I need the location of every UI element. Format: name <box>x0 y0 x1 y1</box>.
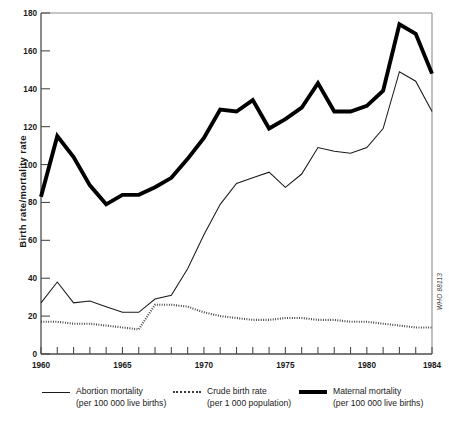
legend-label-line2: (per 1 000 population) <box>207 398 291 410</box>
y-tick-label: 140 <box>23 85 37 94</box>
y-tick-label: 100 <box>23 161 37 170</box>
x-tick-label: 1960 <box>32 361 51 370</box>
series-line-crude-birth-rate <box>41 305 432 330</box>
y-tick-label: 180 <box>23 9 37 18</box>
legend-label-line1: Abortion mortality <box>76 386 166 398</box>
legend-label-line1: Crude birth rate <box>207 386 291 398</box>
series-line-maternal-mortality <box>41 24 432 204</box>
x-tick-label: 1975 <box>276 361 295 370</box>
y-tick-label: 80 <box>28 198 38 207</box>
legend-label-line2: (per 100 000 live births) <box>333 398 423 410</box>
legend-item-crude-birth-rate: Crude birth rate (per 1 000 population) <box>173 386 291 409</box>
y-tick-label: 120 <box>23 123 37 132</box>
legend-swatch-solid-thin-icon <box>42 386 70 400</box>
y-tick-label: 20 <box>28 312 38 321</box>
plot-area: 020406080100120140160180 196019651970197… <box>0 0 449 386</box>
x-axis-ticks: 196019651970197519801984 <box>32 347 442 370</box>
legend-label-crude-birth-rate: Crude birth rate (per 1 000 population) <box>207 386 291 409</box>
legend-swatch-solid-thick-icon <box>299 386 327 400</box>
legend-label-maternal-mortality: Maternal mortality (per 100 000 live bir… <box>333 386 423 409</box>
legend-label-line1: Maternal mortality <box>333 386 423 398</box>
legend-item-maternal-mortality: Maternal mortality (per 100 000 live bir… <box>299 386 423 409</box>
chart-figure: Birth rate/mortality rate WHO 88113 0204… <box>0 0 449 422</box>
y-tick-label: 60 <box>28 236 38 245</box>
y-tick-label: 160 <box>23 47 37 56</box>
x-tick-label: 1980 <box>358 361 377 370</box>
legend-item-abortion-mortality: Abortion mortality (per 100 000 live bir… <box>42 386 166 409</box>
x-tick-label: 1970 <box>195 361 214 370</box>
legend-label-line2: (per 100 000 live births) <box>76 398 166 410</box>
x-tick-label: 1965 <box>113 361 132 370</box>
y-tick-label: 0 <box>32 350 37 359</box>
legend-swatch-dotted-icon <box>173 386 201 400</box>
chart-legend: Abortion mortality (per 100 000 live bir… <box>0 386 449 422</box>
legend-label-abortion-mortality: Abortion mortality (per 100 000 live bir… <box>76 386 166 409</box>
x-tick-label: 1984 <box>423 361 442 370</box>
series-line-abortion-mortality <box>41 72 432 313</box>
y-tick-label: 40 <box>28 274 38 283</box>
